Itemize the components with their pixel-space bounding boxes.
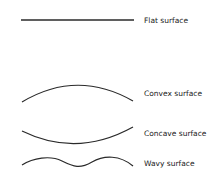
concave-surface-curve	[22, 127, 133, 144]
wavy-surface-label: Wavy surface	[144, 159, 195, 168]
flat-surface-label: Flat surface	[144, 16, 188, 25]
concave-surface-label: Concave surface	[144, 129, 206, 138]
convex-surface-curve	[22, 85, 133, 102]
surface-types-diagram	[0, 0, 217, 176]
wavy-surface-curve	[22, 157, 133, 166]
convex-surface-label: Convex surface	[144, 89, 202, 98]
